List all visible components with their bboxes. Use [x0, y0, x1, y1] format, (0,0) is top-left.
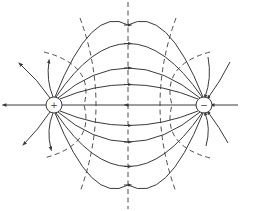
field-line-upper-3 [56, 44, 202, 98]
field-line-neg-lower-right [208, 112, 228, 143]
field-line-neg-upper [205, 57, 209, 97]
positive-charge: + [46, 97, 62, 113]
field-lines-connecting [55, 21, 203, 189]
field-line-pos-upper [48, 61, 53, 97]
negative-charge-symbol: − [200, 100, 208, 110]
field-line-neg-upper-right [208, 62, 230, 98]
field-line-lower-1 [60, 111, 198, 126]
dipole-diagram: + − [0, 0, 254, 211]
dipole-field-svg: + − [0, 0, 254, 211]
field-line-lower-2 [58, 112, 200, 142]
field-line-pos-lower [49, 113, 53, 149]
field-line-upper-4 [55, 21, 203, 97]
field-line-lower-4 [55, 113, 203, 189]
positive-charge-symbol: + [50, 100, 58, 110]
field-line-pos-lower-left [24, 112, 50, 144]
field-line-neg-lower [205, 113, 208, 146]
field-line-upper-2 [58, 68, 200, 98]
field-line-upper-1 [60, 85, 198, 100]
field-line-pos-upper-left [20, 64, 50, 98]
negative-charge: − [196, 97, 212, 113]
